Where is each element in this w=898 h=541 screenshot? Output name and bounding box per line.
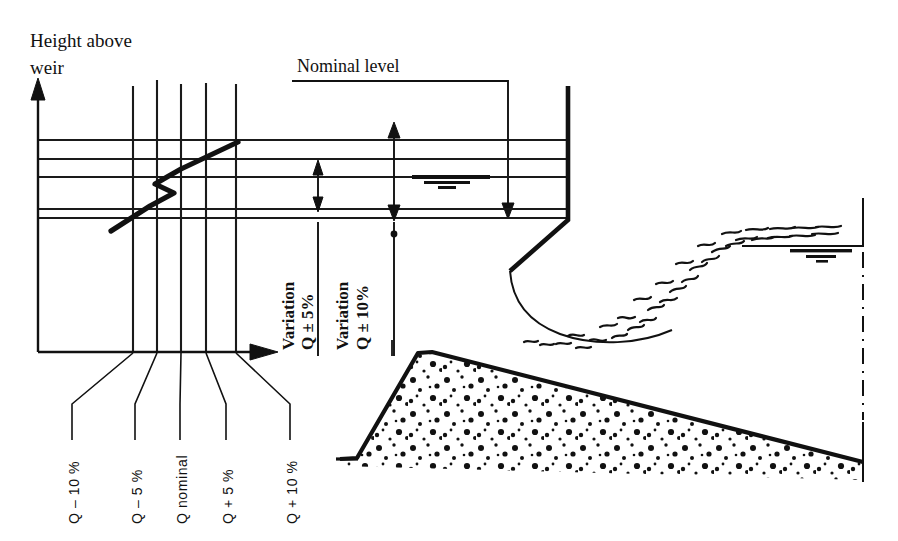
grid-vertical-lines: [133, 80, 236, 352]
variation-5-line2: Q ± 5%: [298, 293, 317, 350]
variation-10-line2: Q ± 10%: [353, 285, 372, 350]
nominal-level-label: Nominal level: [297, 56, 399, 76]
turbulence-foam: [524, 226, 841, 348]
y-axis-title-line1: Height above: [30, 30, 132, 51]
diagram-canvas: Height above weir Nominal level: [0, 0, 898, 541]
upstream-water-level-symbol: [412, 175, 490, 189]
variation-10-line1: Variation: [333, 281, 352, 350]
variation-5-line1: Variation: [279, 281, 298, 350]
q-label-leaders: [72, 353, 290, 440]
nappe-jet: [510, 271, 672, 342]
weir-diagram-svg: Height above weir Nominal level: [0, 0, 898, 541]
dimension-variation-10: [388, 122, 400, 356]
q-label-minus-5: Q – 5 %: [129, 469, 145, 524]
y-axis-title-line2: weir: [30, 57, 64, 78]
q-label-nominal: Q nominal: [174, 455, 190, 524]
y-axis: [31, 78, 45, 352]
variation-5-label: Variation Q ± 5%: [279, 281, 317, 350]
weir-structure: [510, 86, 568, 271]
q-label-plus-5: Q + 5 %: [220, 469, 236, 524]
q-label-minus-10: Q – 10 %: [66, 461, 82, 524]
nominal-level-leader: [292, 81, 514, 219]
embankment: [336, 352, 863, 480]
q-label-plus-10: Q + 10 %: [284, 460, 300, 524]
downstream-water-level-symbol: [742, 246, 862, 263]
variation-10-label: Variation Q ± 10%: [333, 281, 372, 350]
